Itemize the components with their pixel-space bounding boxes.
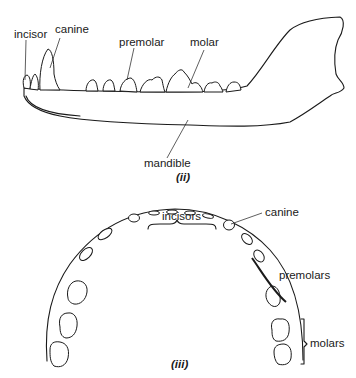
dental-arch-top-view: incisors canine premolars molars (iii): [46, 206, 344, 370]
mandible-side-view: incisor canine premolar molar mandible (…: [14, 17, 344, 183]
premolar-left-1: [96, 226, 114, 242]
label-canine: canine: [55, 23, 89, 35]
molar-tooth-3: [226, 82, 241, 92]
label-molars: molars: [310, 337, 345, 349]
molar-tooth-2: [204, 82, 223, 92]
label-premolar: premolar: [119, 36, 165, 48]
incisor-4: [202, 213, 214, 219]
canine-leader-line-iii: [231, 213, 262, 224]
molar-left-1: [59, 313, 77, 338]
label-incisor: incisor: [14, 28, 47, 40]
canine-tooth: [40, 49, 60, 90]
incisor-leader-line: [25, 40, 26, 80]
molar-right-1: [271, 319, 289, 341]
label-canine-iii: canine: [265, 206, 299, 218]
premolar-tooth-1: [86, 80, 98, 91]
molar-right-2: [274, 344, 291, 365]
label-molar: molar: [190, 36, 219, 48]
incisor-tooth: [23, 75, 30, 89]
incisor-tooth-2: [30, 74, 38, 90]
label-premolars: premolars: [279, 269, 330, 281]
caption-iii: (iii): [171, 358, 188, 370]
label-incisors: incisors: [162, 210, 201, 222]
premolar-tooth-4: [140, 77, 165, 92]
canine-right: [224, 220, 235, 230]
incisor-1: [149, 211, 160, 215]
premolar-left-3: [67, 281, 87, 304]
mandible-leader-line: [167, 120, 188, 158]
molar-tooth-1: [166, 70, 203, 92]
canine-left: [129, 214, 140, 222]
premolar-tooth-2: [103, 80, 115, 91]
mandible-lower-border: [26, 96, 80, 116]
premolar-left-2: [77, 245, 95, 263]
premolar-tooth-3: [120, 78, 137, 92]
label-mandible: mandible: [144, 157, 191, 169]
premolar-leader-line: [127, 48, 134, 80]
molar-left-2: [50, 342, 69, 367]
dentition-diagram: incisor canine premolar molar mandible (…: [0, 0, 356, 378]
caption-ii: (ii): [176, 171, 190, 183]
